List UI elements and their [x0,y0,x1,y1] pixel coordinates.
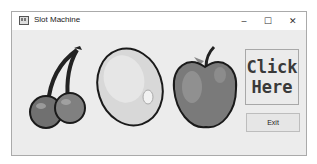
lemon-icon [94,45,166,129]
minimize-button[interactable]: – [232,13,256,29]
click-here-label-line2: Here [252,77,293,97]
close-button[interactable]: ✕ [281,13,305,29]
client-area: Click Here Exit [12,30,306,155]
title-bar: Slot Machine – ☐ ✕ [12,12,306,30]
minimize-icon: – [241,16,246,26]
close-icon: ✕ [289,16,297,26]
maximize-button[interactable]: ☐ [256,13,280,29]
cherries-icon [22,40,92,130]
slot-machine-icon [19,16,29,25]
click-here-button[interactable]: Click Here [245,49,299,105]
window-title: Slot Machine [34,15,80,24]
apple-icon [170,45,240,131]
click-here-label-line1: Click [246,57,297,77]
maximize-icon: ☐ [264,16,272,26]
exit-button[interactable]: Exit [246,113,300,132]
slot-machine-window: Slot Machine – ☐ ✕ [11,11,307,156]
